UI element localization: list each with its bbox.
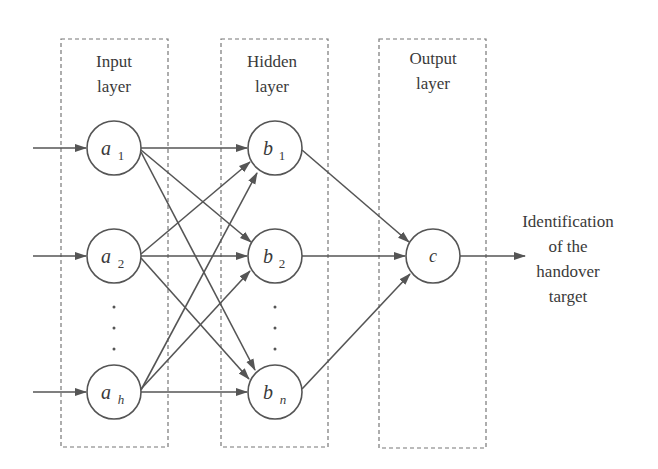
output-layer-title-line2: layer	[416, 74, 450, 93]
edge-a2-b1	[141, 162, 250, 254]
node-b1-sub: 1	[279, 148, 286, 163]
node-a2-base: a	[101, 245, 111, 267]
edge-a1-bn	[141, 152, 255, 370]
hidden-layer-title-line1: Hidden	[247, 52, 298, 71]
node-bn: b n	[248, 365, 302, 419]
node-a2: a 2	[87, 229, 141, 283]
node-b2-base: b	[263, 245, 273, 267]
node-a1-base: a	[101, 137, 111, 159]
edge-a1-b2	[141, 150, 251, 242]
node-b1: b 1	[248, 121, 302, 175]
node-a1: a 1	[87, 121, 141, 175]
hidden-layer-title-line2: layer	[255, 77, 289, 96]
node-b2: b 2	[248, 229, 302, 283]
node-bn-sub: n	[280, 392, 287, 407]
node-a1-sub: 1	[118, 148, 125, 163]
output-label-line2: of the	[548, 237, 587, 256]
neural-network-diagram: Input layer Hidden layer Output layer a …	[0, 0, 658, 469]
output-label-line1: Identification	[522, 212, 614, 231]
node-b1-base: b	[263, 137, 273, 159]
edge-b1-c	[302, 150, 409, 242]
node-b2-sub: 2	[279, 256, 286, 271]
input-layer-title-line1: Input	[96, 52, 132, 71]
edge-bn-c	[302, 274, 410, 389]
node-bn-base: b	[263, 381, 273, 403]
output-label-line4: target	[549, 287, 588, 306]
output-layer-title-line1: Output	[409, 49, 457, 68]
input-layer-title-line2: layer	[97, 77, 131, 96]
hidden-ellipsis	[274, 306, 277, 351]
node-ah: a h	[87, 365, 141, 419]
output-label-line3: handover	[536, 262, 600, 281]
node-a2-sub: 2	[118, 256, 125, 271]
node-ah-sub: h	[118, 392, 125, 407]
node-ah-base: a	[101, 381, 111, 403]
node-c: c	[406, 229, 460, 283]
input-ellipsis	[113, 306, 116, 351]
node-c-base: c	[429, 246, 437, 266]
